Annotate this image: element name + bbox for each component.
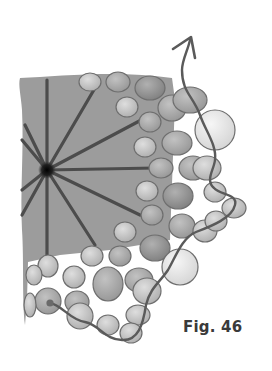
bead (79, 73, 101, 91)
bead (26, 265, 42, 285)
bead (139, 112, 161, 132)
bead (24, 293, 36, 317)
bead (135, 76, 165, 100)
bead (163, 183, 193, 209)
beading-diagram (0, 0, 272, 371)
bead (93, 267, 123, 301)
bead (109, 246, 131, 266)
bead (114, 222, 136, 242)
bead (116, 97, 138, 117)
bead (162, 131, 192, 155)
spoke-line (47, 168, 155, 170)
bead (63, 266, 85, 288)
bead (141, 205, 163, 225)
bead (97, 315, 119, 335)
thread-start-knot (46, 299, 53, 306)
bead (149, 158, 173, 178)
arrow-head-icon (173, 37, 195, 58)
figure-label: Fig. 46 (183, 318, 242, 336)
bead (173, 87, 207, 113)
bead (136, 181, 158, 201)
center-point (38, 161, 56, 179)
bead (162, 249, 198, 285)
bead (134, 137, 156, 157)
bead (106, 72, 130, 92)
bead (81, 246, 103, 266)
bead (193, 156, 221, 180)
